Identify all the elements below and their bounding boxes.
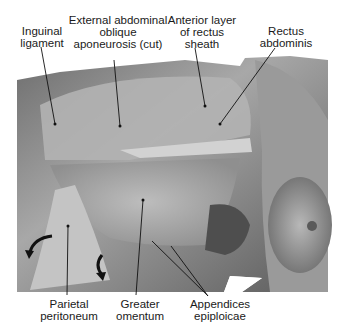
label-greater-omentum: Greater omentum	[110, 298, 170, 322]
label-anterior-rectus-sheath: Anterior layer of rectus sheath	[160, 14, 244, 50]
leader-rectus-abdominis	[220, 48, 275, 124]
leader-appendices-2	[171, 246, 208, 296]
label-appendices-epiploicae: Appendices epiploicae	[180, 298, 260, 322]
leader-appendices-1	[152, 241, 208, 296]
anatomy-figure: Inguinal ligament External abdominal obl…	[0, 0, 344, 323]
leader-greater-omentum	[136, 200, 143, 295]
leader-parietal-peritoneum	[67, 226, 68, 295]
label-parietal-peritoneum: Parietal peritoneum	[34, 298, 104, 322]
label-rectus-abdominis: Rectus abdominis	[250, 25, 322, 49]
leader-inguinal-ligament	[41, 47, 55, 124]
leader-external-oblique	[114, 60, 120, 126]
label-external-oblique-aponeurosis: External abdominal oblique aponeurosis (…	[62, 14, 174, 50]
leader-anterior-rectus-sheath	[195, 48, 205, 106]
